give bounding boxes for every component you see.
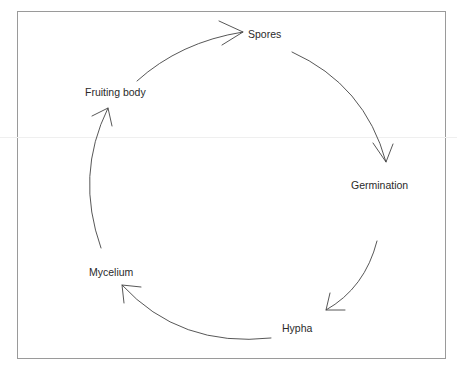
arrow-fruiting-body-to-spores (137, 21, 243, 81)
arrow-mycelium-to-fruiting-body (90, 108, 112, 248)
stage-label-germination: Germination (351, 179, 408, 191)
arrow-hypha-to-mycelium (122, 285, 271, 339)
stage-label-hypha: Hypha (282, 322, 312, 334)
stage-label-spores: Spores (248, 28, 281, 40)
stage-label-mycelium: Mycelium (89, 266, 133, 278)
arrow-spores-to-germination (292, 52, 393, 162)
arrow-germination-to-hypha (326, 241, 377, 310)
stage-label-fruiting-body: Fruiting body (85, 86, 146, 98)
